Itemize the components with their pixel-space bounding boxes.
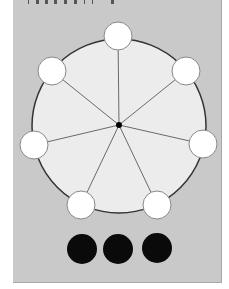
page [0,0,229,289]
node-left[interactable] [20,131,48,159]
black-3[interactable] [142,233,172,263]
circle-puzzle-diagram [0,0,229,289]
black-1[interactable] [67,234,97,264]
node-lower-right[interactable] [143,191,171,219]
black-nodes [67,233,172,264]
hub-dot [116,122,122,128]
black-2[interactable] [103,234,133,264]
node-top[interactable] [104,22,132,50]
node-lower-left[interactable] [67,191,95,219]
node-upper-right[interactable] [172,57,200,85]
node-upper-left[interactable] [38,57,66,85]
node-right[interactable] [189,130,217,158]
